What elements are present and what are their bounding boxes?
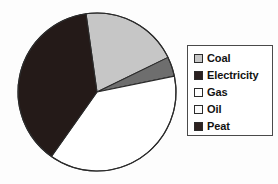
pie-chart-svg [0,0,186,184]
legend-item-gas: Gas [194,84,272,100]
legend-label-electricity: Electricity [207,70,258,81]
pie-chart-figure: Coal Electricity Gas Oil Peat [0,0,278,184]
chart-legend: Coal Electricity Gas Oil Peat [187,45,273,136]
legend-swatch-electricity [194,71,203,80]
pie-plot-area [0,0,186,184]
legend-swatch-coal [194,54,203,63]
legend-label-gas: Gas [207,87,228,98]
legend-item-peat: Peat [194,118,272,134]
pie-slices-group [18,13,176,171]
legend-label-coal: Coal [207,53,230,64]
legend-label-oil: Oil [207,104,221,115]
legend-item-electricity: Electricity [194,67,272,83]
legend-item-oil: Oil [194,101,272,117]
legend-swatch-gas [194,88,203,97]
legend-swatch-oil [194,105,203,114]
legend-item-coal: Coal [194,50,272,66]
legend-label-peat: Peat [207,121,230,132]
legend-swatch-peat [194,122,203,131]
